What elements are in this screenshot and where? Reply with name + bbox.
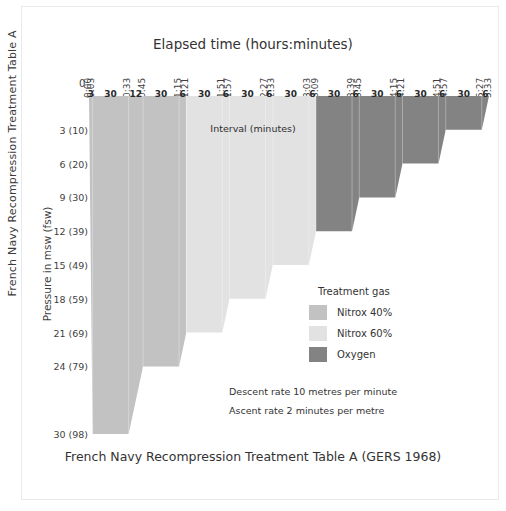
interval-minutes-label: 30 bbox=[104, 89, 117, 99]
chart-page: French Navy Recompression Treatment Tabl… bbox=[0, 0, 506, 511]
rate-note: Ascent rate 2 minutes per metre bbox=[229, 405, 479, 416]
interval-minutes-label: 30 bbox=[241, 89, 254, 99]
interval-minutes-label: 6 bbox=[396, 89, 402, 99]
legend-item: Nitrox 40% bbox=[309, 304, 469, 320]
legend-item: Nitrox 60% bbox=[309, 325, 469, 341]
interval-minutes-label: 6 bbox=[482, 89, 488, 99]
interval-minutes-label: 6 bbox=[353, 89, 359, 99]
interval-minutes-label: 12 bbox=[130, 89, 143, 99]
rate-notes: Descent rate 10 metres per minuteAscent … bbox=[229, 386, 479, 424]
interval-minutes-label: 30 bbox=[285, 89, 298, 99]
depth-profile-plot bbox=[0, 0, 506, 511]
interval-minutes-label: 6 bbox=[223, 89, 229, 99]
legend: Treatment gas Nitrox 40%Nitrox 60%Oxygen bbox=[309, 286, 469, 367]
interval-minutes-label: 3 bbox=[88, 89, 94, 99]
interval-minutes-label: 30 bbox=[155, 89, 168, 99]
legend-swatch bbox=[309, 326, 327, 341]
legend-label: Nitrox 60% bbox=[337, 328, 392, 339]
interval-minutes-label: 6 bbox=[439, 89, 445, 99]
interval-minutes-label: 30 bbox=[371, 89, 384, 99]
legend-label: Oxygen bbox=[337, 349, 376, 360]
interval-minutes-label: 6 bbox=[180, 89, 186, 99]
interval-minutes-label: 6 bbox=[309, 89, 315, 99]
interval-minutes-label: 30 bbox=[198, 89, 211, 99]
legend-swatch bbox=[309, 347, 327, 362]
figure-caption: French Navy Recompression Treatment Tabl… bbox=[0, 449, 506, 464]
interval-minutes-label: 30 bbox=[458, 89, 471, 99]
legend-item: Oxygen bbox=[309, 346, 469, 362]
legend-label: Nitrox 40% bbox=[337, 307, 392, 318]
legend-rows: Nitrox 40%Nitrox 60%Oxygen bbox=[309, 304, 469, 362]
legend-title: Treatment gas bbox=[318, 286, 469, 297]
interval-minutes-label: 30 bbox=[328, 89, 341, 99]
interval-minutes-label: 6 bbox=[266, 89, 272, 99]
interval-minutes-label: 30 bbox=[414, 89, 427, 99]
rate-note: Descent rate 10 metres per minute bbox=[229, 386, 479, 397]
legend-swatch bbox=[309, 305, 327, 320]
